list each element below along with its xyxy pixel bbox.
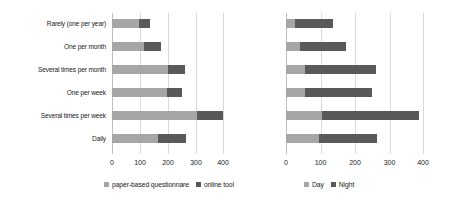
- bar-segment-day: [286, 65, 305, 74]
- table-row: [286, 88, 424, 97]
- x-tick-label: 400: [417, 157, 428, 169]
- table-row: [286, 134, 424, 143]
- legend-swatch-icon: [104, 182, 109, 187]
- bar-segment-paper: [112, 19, 139, 28]
- table-row: [112, 88, 224, 97]
- bar-segment-night: [305, 88, 372, 97]
- bar-segment-night: [319, 134, 378, 143]
- bar-segment-paper: [112, 65, 168, 74]
- bar-segment-online: [158, 134, 186, 143]
- table-row: [286, 19, 424, 28]
- category-label: Several times per month: [38, 66, 106, 74]
- x-tick-label: 0: [284, 157, 288, 169]
- bar-segment-day: [286, 19, 295, 28]
- chart-panel-right: 0 100 200 300 400 Day Night: [228, 0, 451, 205]
- chart-panel-left: Rarely (one per year) One per month Seve…: [0, 0, 228, 205]
- legend-left: paper-based questionnare online tool: [104, 180, 234, 189]
- table-row: [112, 111, 224, 120]
- bars-right: [286, 13, 424, 154]
- bar-segment-night: [305, 65, 376, 74]
- legend-label: Day: [312, 180, 324, 189]
- bar-segment-paper: [112, 111, 197, 120]
- category-axis-labels: Rarely (one per year) One per month Seve…: [0, 0, 108, 150]
- two-panel-stacked-bar-figure: Rarely (one per year) One per month Seve…: [0, 0, 451, 205]
- legend-right: Day Night: [304, 180, 354, 189]
- bar-segment-night: [322, 111, 419, 120]
- bar-segment-online: [197, 111, 222, 120]
- category-label: One per week: [67, 89, 106, 97]
- table-row: [112, 19, 224, 28]
- x-tick-label: 300: [384, 157, 395, 169]
- legend-label: Night: [339, 180, 354, 189]
- bar-segment-day: [286, 42, 300, 51]
- legend-entry-paper: paper-based questionnare: [104, 180, 189, 189]
- bars-left: [112, 13, 224, 154]
- legend-swatch-icon: [196, 182, 201, 187]
- x-tick-label: 100: [134, 157, 145, 169]
- category-label: Daily: [92, 135, 106, 143]
- table-row: [286, 42, 424, 51]
- table-row: [286, 111, 424, 120]
- bar-segment-online: [168, 65, 185, 74]
- bar-segment-night: [300, 42, 347, 51]
- category-label: Several times per week: [41, 112, 106, 120]
- plot-area-left: [112, 13, 224, 154]
- bar-segment-paper: [112, 42, 144, 51]
- legend-entry-day: Day: [304, 180, 324, 189]
- bar-segment-day: [286, 134, 319, 143]
- x-axis-tick-labels-right: 0 100 200 300 400: [286, 157, 424, 169]
- bar-segment-day: [286, 111, 322, 120]
- category-label: Rarely (one per year): [47, 20, 106, 28]
- table-row: [112, 65, 224, 74]
- bar-segment-online: [167, 88, 182, 97]
- category-label: One per month: [64, 43, 106, 51]
- table-row: [112, 42, 224, 51]
- bar-segment-paper: [112, 88, 167, 97]
- bar-segment-night: [295, 19, 333, 28]
- x-tick-label: 0: [110, 157, 114, 169]
- plot-area-right: [286, 13, 424, 154]
- x-axis-tick-labels-left: 0 100 200 300 400: [112, 157, 224, 169]
- legend-label: paper-based questionnare: [112, 180, 189, 189]
- legend-swatch-icon: [304, 182, 309, 187]
- x-tick-label: 400: [217, 157, 228, 169]
- bar-segment-paper: [112, 134, 158, 143]
- bar-segment-online: [144, 42, 161, 51]
- bar-segment-online: [139, 19, 150, 28]
- table-row: [286, 65, 424, 74]
- legend-swatch-icon: [331, 182, 336, 187]
- legend-entry-night: Night: [331, 180, 354, 189]
- x-tick-label: 300: [190, 157, 201, 169]
- table-row: [112, 134, 224, 143]
- x-tick-label: 100: [315, 157, 326, 169]
- x-tick-label: 200: [349, 157, 360, 169]
- bar-segment-day: [286, 88, 305, 97]
- x-tick-label: 200: [162, 157, 173, 169]
